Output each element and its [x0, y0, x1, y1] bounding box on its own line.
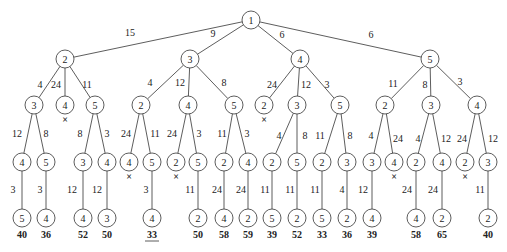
bound-value: 52 [292, 229, 302, 240]
edge-weight: 11 [150, 128, 160, 139]
edge-weight: 3 [325, 79, 330, 90]
bound-value: 39 [267, 229, 277, 240]
pruned-cross-icon: × [462, 171, 468, 182]
bound-value: 33 [317, 229, 327, 240]
edge-weight: 6 [280, 29, 285, 40]
edge-weight: 8 [78, 128, 83, 139]
node-label: 4 [20, 157, 25, 168]
tree-node: 2 [376, 96, 394, 114]
tree-node: 5 [189, 153, 207, 171]
tree-node: 3 [338, 153, 356, 171]
node-label: 5 [93, 100, 98, 111]
node-label: 4 [475, 100, 480, 111]
edge-weight: 24 [236, 184, 246, 195]
edge-weight: 12 [488, 133, 498, 144]
node-label: 4 [63, 100, 68, 111]
leaf-bounds: 40365250335058593952333639586540 [17, 229, 493, 241]
edge-weight: 8 [348, 130, 353, 141]
bound-value: 59 [243, 229, 253, 240]
node-label: 3 [486, 157, 491, 168]
edge-weight: 3 [245, 128, 250, 139]
node-label: 2 [486, 213, 491, 224]
tree-node: 5 [421, 50, 439, 68]
node-label: 2 [320, 157, 325, 168]
tree-node: 4 [179, 96, 197, 114]
tree-node: 1 [242, 11, 260, 29]
tree-node: 5 [263, 209, 281, 227]
node-label: 2 [246, 213, 251, 224]
edge-weight: 12 [12, 128, 22, 139]
tree-node: 4 [239, 153, 257, 171]
edge-weight: 15 [125, 27, 135, 38]
node-label: 3 [370, 157, 375, 168]
edge-weight: 12 [175, 77, 185, 88]
edge-weight: 11 [217, 128, 227, 139]
tree-node: 4 [98, 153, 116, 171]
edge-weight: 24 [267, 79, 277, 90]
tree-edge [198, 25, 244, 54]
node-label: 3 [345, 157, 350, 168]
tree-node: 4 [385, 153, 403, 171]
optimal-bound-value: 33 [147, 229, 157, 240]
edge-weight: 8 [44, 128, 49, 139]
edge-weight: 4 [340, 184, 345, 195]
tree-node: 4 [363, 209, 381, 227]
node-label: 2 [414, 157, 419, 168]
tree-edge [85, 114, 93, 153]
node-label: 2 [139, 100, 144, 111]
node-label: 3 [188, 54, 193, 65]
edge-weight: 4 [38, 79, 43, 90]
tree-node: 3 [25, 96, 43, 114]
edge-weight: 8 [423, 79, 428, 90]
edge-weight: 3 [105, 128, 110, 139]
edge-weight: 24 [51, 79, 61, 90]
tree-node: 2 [433, 209, 451, 227]
node-label: 5 [338, 100, 343, 111]
edge-weight: 3 [458, 76, 463, 87]
node-label: 3 [429, 100, 434, 111]
tree-node: 4 [215, 209, 233, 227]
bound-value: 58 [411, 229, 421, 240]
tree-node: 4 [13, 153, 31, 171]
node-label: 2 [440, 213, 445, 224]
edge-weight: 4 [369, 130, 374, 141]
tree-node: 2 [56, 50, 74, 68]
edge-weight: 4 [277, 130, 282, 141]
edge-weight: 3 [11, 184, 16, 195]
node-label: 2 [345, 213, 350, 224]
node-label: 5 [428, 54, 433, 65]
tree-edge [467, 114, 475, 153]
tree-node: 4 [120, 153, 138, 171]
tree-edge [341, 114, 346, 153]
tree-edge [298, 68, 300, 96]
edge-weight: 24 [457, 133, 467, 144]
tree-node: 3 [422, 96, 440, 114]
node-label: 2 [463, 157, 468, 168]
tree-node: 4 [291, 50, 309, 68]
edge-weight: 11 [315, 130, 325, 141]
node-label: 2 [222, 157, 227, 168]
tree-edge [143, 114, 151, 153]
tree-node: 3 [479, 153, 497, 171]
branch-and-bound-tree: 1596642411412824123118312883241124311348… [0, 0, 507, 252]
node-label: 4 [440, 157, 445, 168]
node-label: 5 [270, 213, 275, 224]
tree-node: 5 [143, 153, 161, 171]
tree-node: 2 [288, 209, 306, 227]
node-label: 2 [262, 100, 267, 111]
edge-weight: 11 [82, 79, 92, 90]
tree-node: 2 [263, 153, 281, 171]
node-label: 2 [196, 213, 201, 224]
node-label: 4 [186, 100, 191, 111]
node-label: 4 [392, 157, 397, 168]
tree-node: 3 [363, 153, 381, 171]
edge-weight: 11 [185, 184, 195, 195]
node-label: 4 [127, 157, 132, 168]
bound-value: 40 [483, 229, 493, 240]
tree-node: 2 [189, 209, 207, 227]
node-label: 5 [150, 157, 155, 168]
edge-weight: 8 [222, 77, 227, 88]
edge-weight: 11 [260, 184, 270, 195]
tree-nodes: 1234534524523523445344525242523342423544… [13, 11, 497, 227]
node-label: 5 [44, 157, 49, 168]
